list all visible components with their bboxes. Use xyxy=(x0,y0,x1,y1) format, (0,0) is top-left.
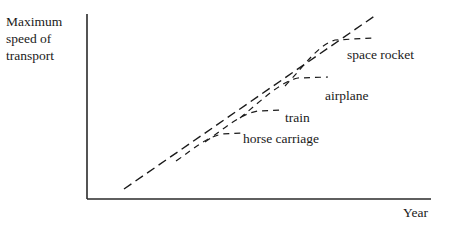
diagram-canvas xyxy=(0,0,454,225)
horse-carriage-label: horse carriage xyxy=(243,130,319,147)
space-rocket-label: space rocket xyxy=(347,46,414,63)
x-axis-label: Year xyxy=(403,204,428,221)
horse-carriage-curve xyxy=(176,133,244,161)
train-label: train xyxy=(285,109,310,126)
airplane-label: airplane xyxy=(325,87,368,104)
y-axis-label: Maximum speed of transport xyxy=(6,13,62,64)
